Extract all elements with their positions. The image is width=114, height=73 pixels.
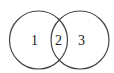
venn-diagram: 1 2 3 — [0, 0, 114, 73]
region-2-label: 2 — [55, 33, 62, 48]
region-3-label: 3 — [78, 33, 85, 48]
region-1-label: 1 — [31, 33, 38, 48]
